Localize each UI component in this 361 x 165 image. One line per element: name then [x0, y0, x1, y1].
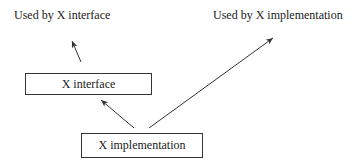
x-interface-label: X interface	[62, 77, 116, 92]
x-implementation-box: X implementation	[81, 133, 203, 158]
arrow-implementation-to-interface	[101, 100, 134, 128]
arrow-interface-to-used-by-interface	[72, 41, 81, 62]
used-by-interface-label: Used by X interface	[14, 8, 110, 22]
x-interface-box: X interface	[25, 73, 152, 95]
x-implementation-label: X implementation	[99, 138, 186, 153]
used-by-implementation-label: Used by X implementation	[213, 8, 343, 22]
arrow-implementation-to-used-by-implementation	[149, 38, 273, 128]
